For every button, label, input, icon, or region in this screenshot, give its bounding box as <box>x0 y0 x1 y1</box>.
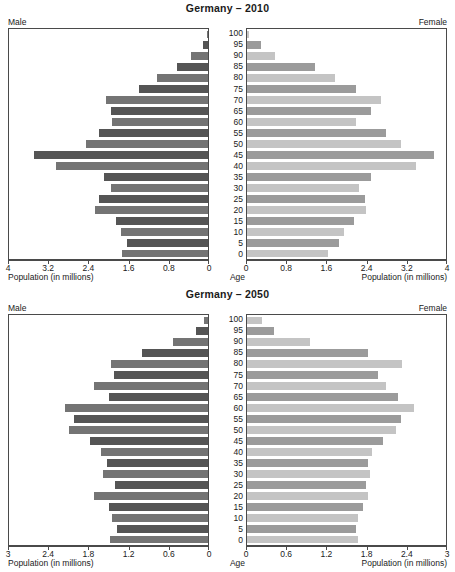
pyramid-row <box>247 29 446 40</box>
male-bar <box>117 525 208 533</box>
pyramid-row <box>9 215 208 226</box>
pyramid-row <box>9 479 208 490</box>
pyramid-row <box>247 457 446 468</box>
pyramid-row <box>247 403 446 414</box>
pyramid-row <box>247 248 446 259</box>
female-bar <box>247 415 401 423</box>
female-bar <box>247 206 366 214</box>
male-bar <box>121 228 208 236</box>
male-bar <box>94 382 208 390</box>
axis-tick-label: 1.6 <box>320 264 332 273</box>
female-bar <box>247 239 339 247</box>
age-tick-label: 85 <box>209 347 246 358</box>
female-bars-2010 <box>247 29 446 259</box>
female-bar <box>247 140 401 148</box>
age-tick-label: 30 <box>209 469 246 480</box>
pyramid-row <box>247 479 446 490</box>
pyramid-row <box>247 534 446 545</box>
axis-line <box>246 260 447 261</box>
pyramid-row <box>9 523 208 534</box>
male-bar <box>191 52 208 60</box>
female-bar <box>247 327 274 335</box>
female-bar <box>247 96 381 104</box>
axis-tick-label: 0.6 <box>163 550 175 559</box>
age-tick-label: 15 <box>209 502 246 513</box>
male-bar <box>204 317 208 325</box>
pyramid-row <box>9 381 208 392</box>
pyramid-row <box>247 435 446 446</box>
pyramid-row <box>9 62 208 73</box>
pyramid-row <box>9 490 208 501</box>
pyramid-row <box>247 359 446 370</box>
pyramid-row <box>247 204 446 215</box>
male-bar <box>112 514 208 522</box>
pyramid-row <box>247 326 446 337</box>
female-bar <box>247 492 368 500</box>
male-bar <box>99 195 208 203</box>
pyramid-row <box>9 204 208 215</box>
female-side-label-2050: Female <box>419 303 447 313</box>
axis-line <box>8 546 209 547</box>
male-bar <box>111 184 208 192</box>
axis-tick-label: 1.6 <box>123 264 135 273</box>
age-tick-label: 100 <box>209 28 246 39</box>
pyramid-row <box>9 226 208 237</box>
age-tick-label: 65 <box>209 105 246 116</box>
pyramid-row <box>247 512 446 523</box>
age-tick-label: 95 <box>209 39 246 50</box>
age-tick-label: 45 <box>209 150 246 161</box>
female-bar <box>247 52 275 60</box>
pyramid-row <box>247 106 446 117</box>
axis-line <box>8 260 209 261</box>
female-bar <box>247 41 261 49</box>
female-bar <box>247 404 414 412</box>
female-bar <box>247 85 356 93</box>
female-bar <box>247 118 356 126</box>
age-axis-caption-2010: Age <box>209 272 246 282</box>
pyramid-row <box>9 51 208 62</box>
axis-tick-label: 0.8 <box>163 264 175 273</box>
female-bar <box>247 360 402 368</box>
age-tick-label: 75 <box>209 369 246 380</box>
male-bar <box>107 459 208 467</box>
female-bar <box>247 107 371 115</box>
male-bar <box>203 41 208 49</box>
pyramid-row <box>247 128 446 139</box>
pyramid-row <box>9 425 208 436</box>
axis-tick-label: 0.6 <box>280 550 292 559</box>
male-bar <box>127 239 208 247</box>
pyramid-row <box>9 435 208 446</box>
pyramid-row <box>247 117 446 128</box>
female-bar <box>247 217 354 225</box>
age-tick-label: 60 <box>209 402 246 413</box>
pyramid-row <box>9 370 208 381</box>
male-axis-caption-2050: Population (in millions) <box>8 558 94 568</box>
age-tick-label: 35 <box>209 458 246 469</box>
male-plot-area-2010 <box>8 28 209 260</box>
axis-tick-label: 1.2 <box>320 550 332 559</box>
pyramid-row <box>247 149 446 160</box>
pyramid-row <box>247 171 446 182</box>
pyramid-row <box>247 84 446 95</box>
age-tick-label: 95 <box>209 325 246 336</box>
pyramid-row <box>247 139 446 150</box>
pyramid-row <box>9 73 208 84</box>
female-bars-2050 <box>247 315 446 545</box>
female-bar <box>247 129 386 137</box>
male-bar <box>115 481 208 489</box>
pyramid-row <box>247 381 446 392</box>
female-bar <box>247 317 262 325</box>
male-bar <box>69 426 208 434</box>
pyramid-row <box>247 193 446 204</box>
age-tick-label: 10 <box>209 227 246 238</box>
female-bar <box>247 349 368 357</box>
pyramid-row <box>9 149 208 160</box>
axis-tick-label: 1.2 <box>123 550 135 559</box>
age-tick-label: 0 <box>209 535 246 546</box>
chart-title-2050: Germany – 2050 <box>0 288 455 300</box>
male-bar <box>34 151 208 159</box>
female-side-label-2010: Female <box>419 17 447 27</box>
female-bar <box>247 371 378 379</box>
age-tick-label: 40 <box>209 447 246 458</box>
male-bar <box>111 360 208 368</box>
